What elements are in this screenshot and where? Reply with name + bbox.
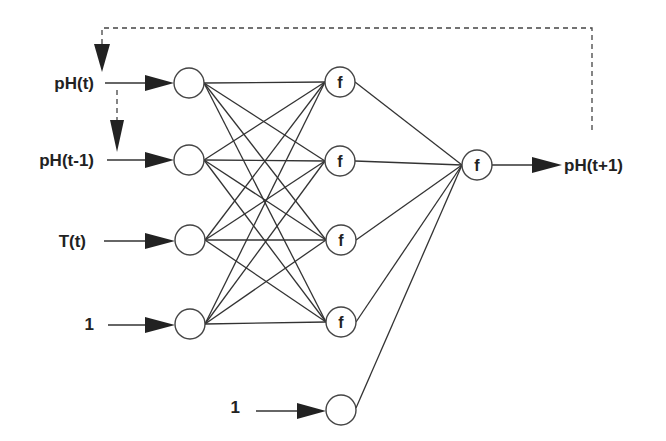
hidden-node-label: f [337, 74, 343, 91]
output-layer: f [462, 150, 492, 180]
hidden-bias-node [326, 395, 356, 425]
arrow-icon [532, 157, 562, 173]
input-node [174, 68, 204, 98]
hidden-layer: f f f f [325, 67, 356, 425]
input-label-temperature: T(t) [59, 232, 86, 251]
input-label-ph-t-1: pH(t-1) [39, 151, 94, 170]
input-hidden-edges [204, 82, 326, 324]
input-label-ph-t: pH(t) [54, 74, 94, 93]
arrow-icon [145, 152, 174, 168]
hidden-output-edges [355, 82, 462, 408]
input-node [175, 225, 205, 255]
input-node [174, 145, 204, 175]
input-layer [174, 68, 205, 339]
hidden-node-label: f [338, 314, 344, 331]
input-label-bias: 1 [85, 315, 94, 334]
arrow-icon [145, 75, 174, 91]
network-diagram: f f f f f pH(t) pH(t-1) T(t) 1 1 pH(t+1) [0, 0, 666, 441]
hidden-node-label: f [338, 232, 344, 249]
arrow-icon [145, 233, 175, 249]
delay-arrowhead-icon [110, 120, 124, 152]
output-label: pH(t+1) [564, 156, 623, 175]
feedback-arrowhead-icon [94, 44, 110, 72]
hidden-node-label: f [337, 153, 343, 170]
hidden-bias-label: 1 [231, 398, 240, 417]
arrow-icon [145, 317, 175, 333]
input-node [175, 309, 205, 339]
output-node-label: f [474, 157, 480, 174]
arrow-icon [297, 403, 326, 419]
